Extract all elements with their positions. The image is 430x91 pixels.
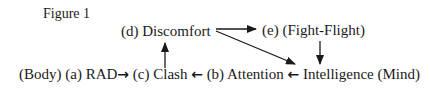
diagram-arrows xyxy=(0,0,430,91)
arrow-discomfort-to-intelligence xyxy=(216,31,295,64)
